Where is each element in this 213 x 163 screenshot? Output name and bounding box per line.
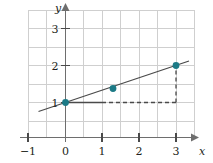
plot-background [0,0,213,163]
coordinate-plane-plot: −1 0 1 2 3 1 2 3 x y [0,0,213,163]
y-tick-label-two: 2 [52,60,59,73]
data-point [62,99,69,106]
x-tick-label-two: 2 [136,145,143,158]
y-tick-label-three: 3 [52,23,59,36]
x-tick-label-three: 3 [173,145,180,158]
x-tick-label-zero: 0 [62,145,69,158]
data-point [110,85,117,92]
x-axis-label: x [199,145,206,158]
graph-figure: −1 0 1 2 3 1 2 3 x y [0,0,213,163]
x-tick-label-one: 1 [99,145,106,158]
y-axis-label: y [54,2,62,15]
x-tick-label-minus-one: −1 [20,145,36,158]
y-tick-label-one: 1 [52,97,59,110]
data-point [173,62,180,69]
